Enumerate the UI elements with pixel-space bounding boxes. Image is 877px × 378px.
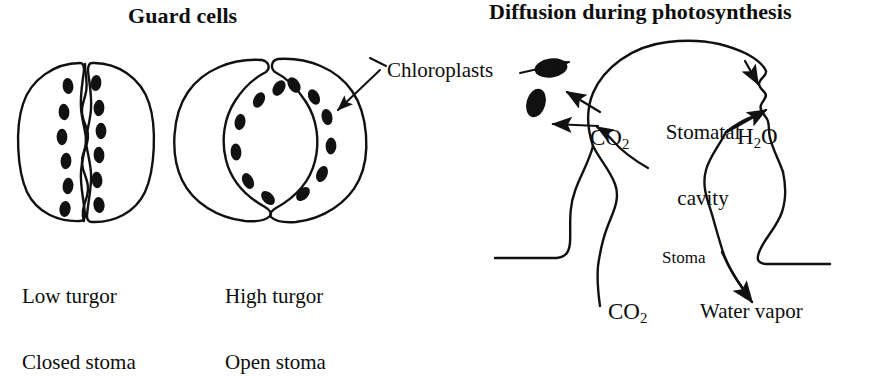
- label-co2-bottom-subscript: 2: [640, 310, 647, 326]
- water-vapor-exit-arrow: [722, 252, 752, 302]
- closed-stoma-group: [18, 63, 154, 222]
- caption-closed-line1: Low turgor: [22, 285, 136, 307]
- label-stomatal-cavity: Stomatal cavity: [647, 76, 759, 254]
- label-h2o-tail: O: [761, 124, 778, 149]
- label-co2-bottom: CO2: [608, 300, 647, 327]
- caption-closed-line2: Closed stoma: [22, 351, 136, 373]
- label-h2o-subscript: 2: [754, 135, 761, 151]
- chloroplast-cluster-open-right: [285, 75, 337, 204]
- caption-open-stoma: High turgor Open stoma: [225, 240, 326, 378]
- co2-arrow-to-chloroplast-top: [567, 92, 600, 112]
- label-co2-cavity-subscript: 2: [622, 136, 629, 152]
- label-stoma: Stoma: [662, 249, 705, 267]
- caption-open-line1: High turgor: [225, 285, 326, 307]
- label-co2-cavity-text: CO: [590, 125, 622, 150]
- caption-closed-stoma: Low turgor Closed stoma: [22, 240, 136, 378]
- label-co2-bottom-text: CO: [608, 299, 640, 324]
- chloroplast-cluster-closed-left: [57, 77, 75, 217]
- chloroplast-ovals-diffusion: [523, 56, 569, 119]
- leader-tick-chloroplasts: [370, 58, 386, 66]
- label-co2-cavity: CO2: [590, 126, 629, 153]
- panel-title-guard-cells: Guard cells: [128, 4, 237, 27]
- label-chloroplasts: Chloroplasts: [387, 59, 493, 81]
- label-h2o: H2O: [737, 125, 778, 152]
- caption-open-line2: Open stoma: [225, 351, 326, 373]
- label-water-vapor: Water vapor: [700, 300, 803, 322]
- label-h2o-text: H: [737, 124, 754, 149]
- open-stoma-group: [174, 59, 380, 222]
- label-stomatal-cavity-line2: cavity: [647, 187, 759, 209]
- panel-title-diffusion: Diffusion during photosynthesis: [489, 0, 792, 23]
- chloroplast-cluster-closed-right: [90, 74, 107, 213]
